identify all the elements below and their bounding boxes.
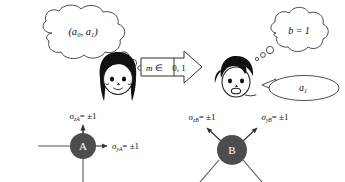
alice-eye-right bbox=[122, 76, 126, 81]
alice-label-z: σzA= ±1 bbox=[70, 111, 97, 122]
alice-thought-mid: , a bbox=[80, 26, 91, 37]
message-relation: ∈ bbox=[155, 63, 163, 73]
bob-node-label: B bbox=[228, 144, 235, 156]
bob-speech-sub: 1 bbox=[304, 87, 307, 94]
alice-label-y-value: = ±1 bbox=[122, 141, 139, 151]
bob-hair-sideburn bbox=[215, 70, 221, 83]
alice-label-y: σyA= ±1 bbox=[112, 141, 139, 152]
bob-axis-lower-right bbox=[243, 160, 262, 182]
diagram-canvas: (a0, a1) m ∈ 0, 1 bbox=[0, 0, 345, 182]
message-symbol: m bbox=[146, 63, 153, 73]
alice-thought-open: (a bbox=[68, 26, 77, 38]
alice-label-z-value: = ±1 bbox=[80, 111, 97, 121]
alice-thought-close: ) bbox=[93, 26, 98, 38]
message-set: 0, 1 bbox=[172, 63, 186, 73]
bob-label-y: σyB= ±1 bbox=[261, 112, 288, 123]
bob-thought-text: b = 1 bbox=[288, 25, 310, 36]
bob-mouth bbox=[231, 88, 240, 94]
message-arrow: m ∈ 0, 1 bbox=[141, 51, 202, 83]
bob-thought-bubble: b = 1 bbox=[255, 7, 328, 60]
bob-label-z-value: = ±1 bbox=[199, 112, 216, 122]
alice-node-group: A σzA= ±1 σyA= ±1 bbox=[38, 111, 139, 182]
alice-eye-left bbox=[110, 76, 114, 81]
bob-label-y-value: = ±1 bbox=[272, 112, 289, 122]
bob-label-z: σzB= ±1 bbox=[189, 112, 216, 123]
bob-character bbox=[215, 56, 256, 97]
bob-axis-lower-left bbox=[200, 160, 219, 182]
bob-arrow-y bbox=[243, 128, 257, 141]
bob-eye-right bbox=[240, 79, 244, 84]
bob-arrow-z bbox=[207, 128, 221, 141]
bob-node-group: B σzB= ±1 σyB= ±1 bbox=[189, 112, 289, 182]
alice-character bbox=[100, 52, 137, 101]
alice-node-label: A bbox=[79, 140, 87, 152]
bob-speech-balloon: a1 bbox=[262, 76, 339, 101]
bob-eye-left bbox=[228, 79, 232, 84]
bob-collar bbox=[245, 95, 256, 96]
alice-thought-text: (a0, a1) bbox=[68, 26, 98, 38]
